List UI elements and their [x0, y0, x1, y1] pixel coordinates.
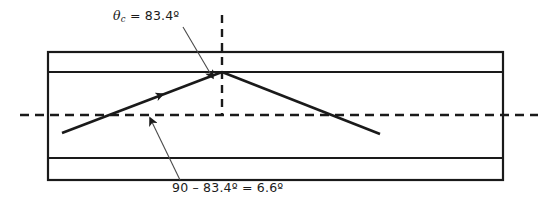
theta-critical-value: 83.4º	[145, 8, 180, 23]
complement-angle-leader-line	[150, 118, 180, 180]
complement-angle-label: 90 – 83.4º = 6.6º	[172, 182, 283, 195]
optical-fiber-reflection-diagram: θc = 83.4º 90 – 83.4º = 6.6º	[0, 0, 545, 206]
theta-equals-sign: =	[126, 8, 145, 23]
incident-ray	[62, 72, 222, 133]
theta-symbol: θ	[113, 8, 121, 23]
theta-critical-label: θc = 83.4º	[113, 10, 179, 23]
diagram-canvas	[0, 0, 545, 206]
reflected-ray	[222, 72, 380, 134]
